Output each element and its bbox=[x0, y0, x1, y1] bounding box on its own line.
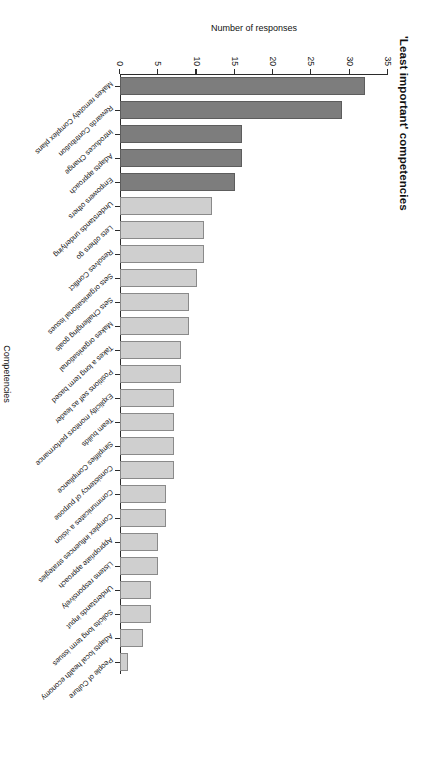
bar bbox=[120, 173, 235, 190]
bar bbox=[120, 221, 204, 238]
bar bbox=[120, 533, 158, 550]
category-axis-tick bbox=[115, 662, 120, 663]
bar bbox=[120, 125, 243, 142]
bar bbox=[120, 389, 174, 406]
value-axis-tick-label: 0 bbox=[115, 61, 125, 66]
category-axis-tick bbox=[115, 134, 120, 135]
category-axis-tick bbox=[115, 278, 120, 279]
category-axis-tick bbox=[115, 302, 120, 303]
value-axis-tick-label: 20 bbox=[268, 56, 278, 66]
bar bbox=[120, 317, 189, 334]
plot-area: 05101520253035 Number of responses Makes… bbox=[120, 74, 388, 674]
bar bbox=[120, 509, 166, 526]
category-axis-tick bbox=[115, 422, 120, 423]
bar bbox=[120, 629, 143, 646]
category-axis-tick bbox=[115, 542, 120, 543]
category-axis-tick bbox=[115, 614, 120, 615]
bar bbox=[120, 77, 365, 94]
value-axis-tick-label: 10 bbox=[192, 56, 202, 66]
category-axis-tick bbox=[115, 494, 120, 495]
value-axis-tick-label: 25 bbox=[306, 56, 316, 66]
category-axis-tick bbox=[115, 590, 120, 591]
bar bbox=[120, 269, 197, 286]
bar bbox=[120, 653, 128, 670]
category-axis-tick bbox=[115, 86, 120, 87]
category-axis-tick bbox=[115, 326, 120, 327]
bar bbox=[120, 149, 243, 166]
bar bbox=[120, 293, 189, 310]
value-axis-tick-label: 15 bbox=[230, 56, 240, 66]
category-axis-tick bbox=[115, 254, 120, 255]
bar-chart-figure: 'Least important' competencies 051015202… bbox=[0, 0, 424, 761]
value-axis-tick-label: 30 bbox=[345, 56, 355, 66]
bar bbox=[120, 437, 174, 454]
value-axis-tick-label: 5 bbox=[153, 61, 163, 66]
bar bbox=[120, 581, 151, 598]
category-axis-tick bbox=[115, 566, 120, 567]
category-axis-tick bbox=[115, 182, 120, 183]
category-axis-tick bbox=[115, 638, 120, 639]
category-axis-tick bbox=[115, 398, 120, 399]
bar bbox=[120, 605, 151, 622]
category-axis-tick bbox=[115, 374, 120, 375]
bar bbox=[120, 485, 166, 502]
bar bbox=[120, 413, 174, 430]
bar bbox=[120, 245, 204, 262]
bar bbox=[120, 341, 181, 358]
category-axis-tick bbox=[115, 350, 120, 351]
bar bbox=[120, 365, 181, 382]
category-axis-title: Competencies bbox=[2, 345, 12, 403]
value-axis-tick-label: 35 bbox=[383, 56, 393, 66]
category-axis-tick bbox=[115, 230, 120, 231]
category-axis-tick bbox=[115, 158, 120, 159]
category-axis-tick bbox=[115, 446, 120, 447]
category-axis-tick bbox=[115, 206, 120, 207]
bar bbox=[120, 197, 212, 214]
bar bbox=[120, 101, 342, 118]
rotated-figure-wrapper: 'Least important' competencies 051015202… bbox=[0, 0, 424, 761]
bar-series: Makes remotely Complex plansRewards Cont… bbox=[120, 74, 388, 674]
bar bbox=[120, 557, 158, 574]
chart-title: 'Least important' competencies bbox=[398, 36, 410, 211]
category-axis-tick bbox=[115, 518, 120, 519]
category-axis-tick bbox=[115, 470, 120, 471]
value-axis-title: Number of responses bbox=[211, 23, 297, 33]
category-axis-tick bbox=[115, 110, 120, 111]
bar bbox=[120, 461, 174, 478]
